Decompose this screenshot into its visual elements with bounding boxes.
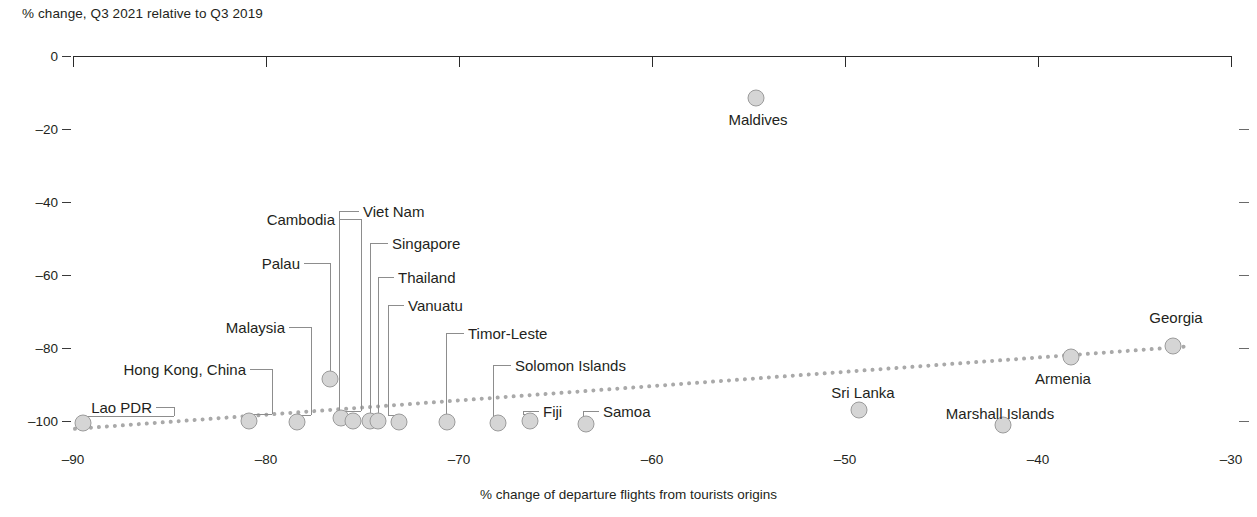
x-axis-tick-label: –90 [62,452,85,467]
leader-line-connector [83,416,174,417]
point-label: Viet Nam [363,204,424,219]
leader-line-horizontal [304,263,330,264]
data-point[interactable] [578,415,595,432]
y-axis-tick-left [62,421,71,422]
x-axis-tick-label: –70 [448,452,471,467]
point-label: Lao PDR [91,400,152,415]
data-point[interactable] [1165,337,1182,354]
data-point[interactable] [489,414,506,431]
data-point[interactable] [321,371,338,388]
y-axis-tick-label: 0 [50,49,58,64]
leader-line-horizontal [446,333,464,334]
leader-line-vertical [361,219,362,411]
leader-line-horizontal [583,411,599,412]
x-axis-tick [73,56,74,67]
point-label: Timor-Leste [468,326,547,341]
y-axis-title: % change, Q3 2021 relative to Q3 2019 [22,6,263,21]
x-axis-tick-label: –40 [1027,452,1050,467]
y-axis-tick-right [1239,421,1249,422]
leader-line-horizontal [378,277,394,278]
leader-line-horizontal [156,407,174,408]
scatter-chart: % change, Q3 2021 relative to Q3 2019 –9… [0,0,1257,517]
y-axis-tick-label: –60 [35,268,58,283]
x-axis-title: % change of departure flights from touri… [0,487,1257,502]
leader-line-vertical [493,365,494,416]
leader-line-vertical [174,407,175,416]
data-point[interactable] [748,89,765,106]
data-point[interactable] [439,414,456,431]
leader-line-vertical [330,263,331,372]
y-axis-tick-label: –80 [35,341,58,356]
point-label: Cambodia [267,212,335,227]
y-axis-tick-label: –40 [35,195,58,210]
data-point[interactable] [288,414,305,431]
x-axis-tick [845,56,846,67]
leader-line-vertical [272,369,273,414]
leader-line-horizontal [493,365,511,366]
leader-line-vertical [311,327,312,415]
x-axis-tick-label: –80 [255,452,278,467]
point-label: Solomon Islands [515,358,626,373]
point-label: Vanuatu [408,298,463,313]
x-axis-tick [1038,56,1039,67]
leader-line-vertical [370,243,371,414]
y-axis-tick-left [62,348,71,349]
data-point[interactable] [344,412,361,429]
x-axis-tick [652,56,653,67]
leader-line-vertical [339,211,340,414]
leader-line-vertical [378,277,379,414]
point-label: Armenia [1035,371,1091,386]
point-label: Singapore [392,236,460,251]
leader-line-horizontal [339,219,361,220]
data-point[interactable] [74,415,91,432]
point-label: Marshall Islands [946,406,1054,421]
point-label: Thailand [398,270,456,285]
y-axis-tick-label: –100 [28,414,58,429]
data-point[interactable] [1062,349,1079,366]
data-point[interactable] [850,402,867,419]
x-axis-tick-label: –60 [641,452,664,467]
leader-line-horizontal [370,243,388,244]
point-label: Georgia [1149,310,1202,325]
leader-line-vertical [388,305,389,415]
data-point[interactable] [369,413,386,430]
leader-line-horizontal [339,211,359,212]
leader-line-vertical [446,333,447,415]
point-label: Sri Lanka [831,385,894,400]
point-label: Palau [262,256,300,271]
x-axis-tick-label: –30 [1220,452,1243,467]
point-label: Samoa [603,404,651,419]
y-axis-tick-right [1239,129,1249,130]
point-label: Maldives [728,112,787,127]
x-axis-tick [1231,56,1232,67]
data-point[interactable] [522,413,539,430]
y-axis-tick-right [1239,348,1249,349]
data-point[interactable] [240,413,257,430]
x-axis-tick-label: –50 [834,452,857,467]
leader-line-horizontal [388,305,404,306]
y-axis-tick-label: –20 [35,122,58,137]
y-axis-tick-left [62,56,71,57]
leader-line-horizontal [289,327,311,328]
y-axis-tick-left [62,275,71,276]
x-axis-tick [266,56,267,67]
y-axis-tick-right [1239,275,1249,276]
point-label: Hong Kong, China [123,362,246,377]
y-axis-tick-right [1239,202,1249,203]
y-axis-tick-left [62,202,71,203]
x-axis-tick [459,56,460,67]
leader-line-horizontal [250,369,272,370]
point-label: Fiji [543,404,562,419]
data-point[interactable] [391,414,408,431]
y-axis-tick-left [62,129,71,130]
point-label: Malaysia [226,320,285,335]
